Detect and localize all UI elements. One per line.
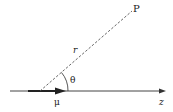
dipole-diagram: P r θ μ z bbox=[0, 0, 173, 112]
axis-label: z bbox=[158, 97, 164, 107]
z-axis-arrowhead-icon bbox=[159, 89, 166, 94]
angle-label: θ bbox=[70, 75, 75, 85]
angle-arc bbox=[62, 73, 69, 92]
dipole-label: μ bbox=[54, 97, 60, 107]
radius-dashed-line bbox=[40, 11, 132, 91]
point-label: P bbox=[133, 3, 140, 14]
dipole-arrowhead-icon bbox=[55, 88, 66, 95]
radius-label: r bbox=[73, 45, 78, 55]
